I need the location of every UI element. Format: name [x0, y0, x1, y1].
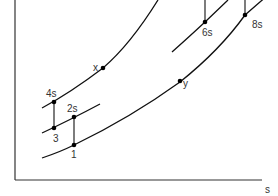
pressure-line-6	[172, 0, 228, 52]
pressure-line-1-y-8	[42, 0, 268, 158]
point-3	[52, 126, 57, 131]
label-4s: 4s	[46, 88, 57, 99]
point-8s	[243, 13, 248, 18]
x-axis-label: s	[265, 184, 270, 195]
point-y	[178, 79, 183, 84]
point-2s	[72, 115, 77, 120]
point-x	[101, 66, 106, 71]
point-6s	[203, 20, 208, 25]
label-2s: 2s	[67, 103, 78, 114]
label-6s: 6s	[202, 27, 213, 38]
pressure-line-4-x	[42, 0, 158, 108]
point-1	[72, 143, 77, 148]
point-4s	[52, 100, 57, 105]
process-diagram: 1 2s 3 4s x y 6s 8s s	[0, 0, 278, 196]
label-3: 3	[53, 133, 59, 144]
label-1: 1	[71, 149, 77, 160]
label-8s: 8s	[252, 19, 263, 30]
label-x: x	[93, 62, 98, 73]
label-y: y	[183, 78, 188, 89]
